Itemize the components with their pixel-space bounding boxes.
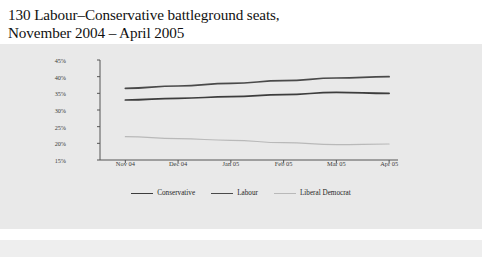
page-title-line-2: November 2004 – April 2005 — [8, 24, 448, 42]
legend-item-label: Conservative — [157, 189, 195, 197]
data-series-group — [125, 77, 389, 145]
x-axis-tick-label: Dec 04 — [169, 160, 187, 167]
figure-title: 130 Labour–Conservative battleground sea… — [8, 6, 448, 41]
line-chart-svg — [70, 56, 400, 176]
y-axis-tick-labels: 15%20%25%30%35%40%45% — [36, 56, 66, 176]
legend-item-labour[interactable]: Labour — [211, 189, 258, 197]
y-axis-tick-label: 20% — [40, 140, 66, 147]
figure-page: 130 Labour–Conservative battleground sea… — [0, 0, 482, 257]
x-axis-tick-label: Feb 05 — [275, 160, 293, 167]
legend-line-swatch — [211, 193, 233, 194]
y-axis-tick-label: 35% — [40, 90, 66, 97]
legend-line-swatch — [274, 193, 296, 194]
legend-line-swatch — [131, 193, 153, 194]
x-axis-tick-label: Nov 04 — [116, 160, 135, 167]
page-bottom-cutoff-band — [0, 240, 482, 257]
y-axis-tick-label: 30% — [40, 107, 66, 114]
x-axis-tick-label: Apr 05 — [380, 160, 398, 167]
y-axis-tick-label: 25% — [40, 123, 66, 130]
y-axis-tick-label: 15% — [40, 157, 66, 164]
chart-panel: 15%20%25%30%35%40%45% Nov 04Dec 04Jan 05… — [0, 44, 482, 229]
x-axis-tick-label: Jan 05 — [223, 160, 240, 167]
chart-legend: ConservativeLabourLiberal Democrat — [0, 189, 482, 197]
legend-item-liberal-democrat[interactable]: Liberal Democrat — [274, 189, 351, 197]
page-title-line-1: 130 Labour–Conservative battleground sea… — [8, 6, 448, 24]
axis-group — [97, 60, 398, 163]
legend-item-conservative[interactable]: Conservative — [131, 189, 195, 197]
x-axis-tick-labels: Nov 04Dec 04Jan 05Feb 05Mar 05Apr 05 — [70, 160, 400, 176]
y-axis-tick-label: 45% — [40, 57, 66, 64]
series-line-conservative — [125, 92, 389, 100]
legend-item-label: Liberal Democrat — [300, 189, 351, 197]
x-axis-tick-label: Mar 05 — [327, 160, 346, 167]
plot-area — [70, 56, 400, 176]
y-axis-tick-label: 40% — [40, 73, 66, 80]
series-line-labour — [125, 77, 389, 89]
legend-item-label: Labour — [237, 189, 258, 197]
series-line-liberal-democrat — [125, 137, 389, 145]
